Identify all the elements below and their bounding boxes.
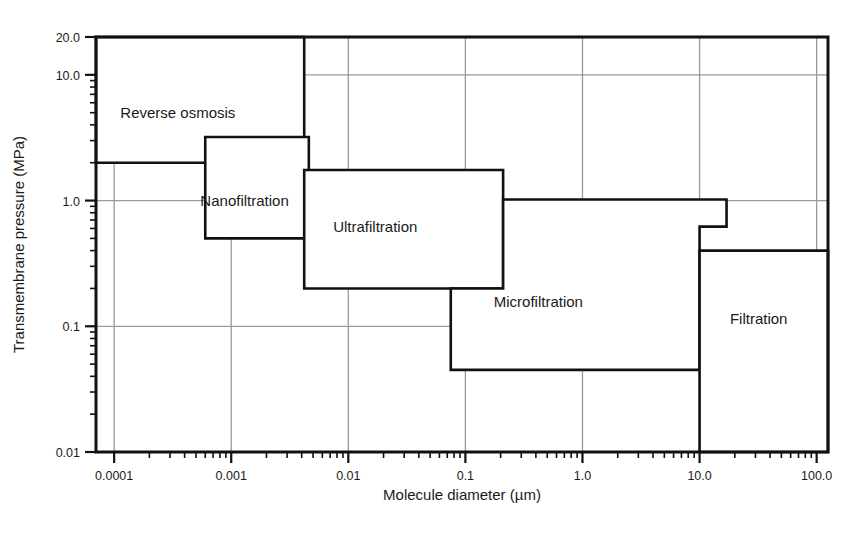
x-axis-label: Molecule diameter (µm)	[383, 486, 541, 503]
membrane-filtration-chart: 0.00010.0010.010.11.010.0100.00.010.11.0…	[0, 0, 860, 533]
y-tick-label: 10.0	[56, 69, 80, 83]
region-label-ultrafiltration: Ultrafiltration	[333, 218, 417, 235]
region-nanofiltration	[205, 137, 309, 238]
x-tick-label: 10.0	[687, 469, 711, 483]
x-tick-label: 0.01	[336, 469, 360, 483]
y-tick-label: 1.0	[63, 195, 80, 209]
y-axis-label: Transmembrane pressure (MPa)	[10, 136, 27, 353]
y-tick-label: 20.0	[56, 31, 80, 45]
chart-root: 0.00010.0010.010.11.010.0100.00.010.11.0…	[0, 0, 860, 533]
y-tick-label: 0.1	[63, 320, 80, 334]
y-tick-label: 0.01	[56, 446, 80, 460]
x-tick-label: 0.1	[457, 469, 474, 483]
region-label-filtration: Filtration	[730, 310, 788, 327]
x-tick-label: 1.0	[574, 469, 591, 483]
region-filtration	[700, 251, 828, 452]
region-label-microfiltration: Microfiltration	[494, 293, 583, 310]
region-label-nanofiltration: Nanofiltration	[200, 192, 288, 209]
x-tick-label: 0.001	[216, 469, 247, 483]
region-label-reverse-osmosis: Reverse osmosis	[120, 104, 235, 121]
x-tick-label: 0.0001	[95, 469, 133, 483]
x-tick-label: 100.0	[801, 469, 832, 483]
